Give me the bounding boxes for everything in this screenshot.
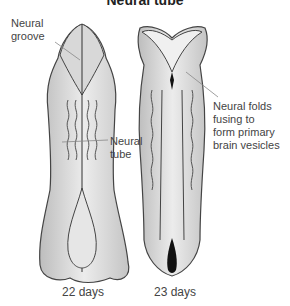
- embryo-23-days: [138, 27, 207, 276]
- label-neural-groove: Neural groove: [11, 17, 45, 43]
- embryo-diagram: [0, 0, 290, 306]
- label-neural-folds: Neural folds fusing to form primary brai…: [213, 100, 280, 152]
- label-neural-tube: Neural tube: [110, 135, 142, 161]
- caption-23-days: 23 days: [154, 286, 196, 299]
- caption-22-days: 22 days: [62, 286, 104, 299]
